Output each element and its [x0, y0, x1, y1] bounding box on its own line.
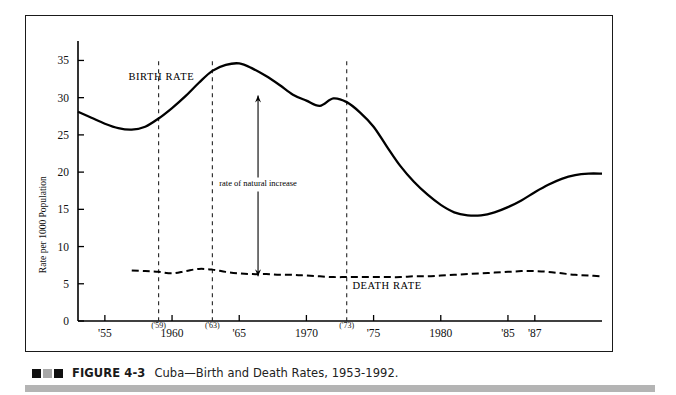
gray-square-icon [43, 369, 52, 378]
y-tick-label: 15 [58, 203, 70, 215]
chart-canvas: 05101520253035Rate per 1000 Population'5… [26, 16, 614, 353]
y-axis-title: Rate per 1000 Population [38, 176, 48, 273]
x-tick-label: '87 [528, 327, 542, 339]
figure-caption: FIGURE 4-3 Cuba—Birth and Death Rates, 1… [32, 363, 632, 383]
x-tick-label: 1980 [429, 327, 452, 339]
birth-rate-label: BIRTH RATE [128, 71, 194, 82]
caption-marker [32, 369, 63, 378]
figure-number: FIGURE 4-3 [72, 366, 145, 380]
x-tick-label: '75 [367, 327, 381, 339]
black-square-icon [54, 369, 63, 378]
y-tick-label: 30 [58, 92, 70, 104]
x-tick-label: '65 [232, 327, 246, 339]
x-secondary-label: ('73) [339, 321, 354, 330]
y-tick-label: 10 [58, 241, 70, 253]
series-death-rate [132, 269, 602, 277]
y-tick-label: 5 [63, 278, 69, 290]
x-secondary-label: ('63) [205, 321, 220, 330]
y-tick-label: 20 [58, 166, 70, 178]
y-tick-label: 35 [58, 54, 70, 66]
figure-page: 05101520253035Rate per 1000 Population'5… [0, 0, 676, 395]
black-square-icon [32, 369, 41, 378]
y-tick-label: 25 [58, 129, 70, 141]
x-tick-label: 1970 [295, 327, 318, 339]
x-tick-label: '85 [501, 327, 515, 339]
footer-rule [25, 385, 655, 392]
death-rate-label: DEATH RATE [352, 280, 421, 291]
figure-frame: 05101520253035Rate per 1000 Population'5… [25, 15, 613, 352]
figure-caption-text: Cuba—Birth and Death Rates, 1953-1992. [154, 366, 398, 380]
x-secondary-label: ('59) [151, 321, 166, 330]
y-tick-label: 0 [63, 315, 69, 327]
x-tick-label: '55 [98, 327, 112, 339]
natural-increase-label: rate of natural increase [219, 178, 297, 188]
series-birth-rate [78, 63, 602, 215]
